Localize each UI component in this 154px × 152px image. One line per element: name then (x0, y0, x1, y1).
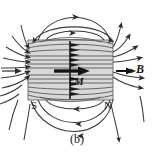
south-pole-label: S (31, 100, 37, 111)
field-label-B: B (136, 63, 144, 75)
field-inbound-arrow-left (2, 68, 22, 74)
magnetization-label-M: M (74, 76, 84, 87)
external-field-lines-right (113, 25, 142, 88)
external-field-loops-top (34, 18, 113, 43)
magnet-field-figure: B M S N (b) (0, 0, 154, 152)
figure-caption: (b) (0, 133, 154, 145)
external-field-lines-left (1, 25, 28, 88)
north-pole-label: N (104, 100, 112, 111)
external-field-loops-bottom (31, 99, 113, 132)
